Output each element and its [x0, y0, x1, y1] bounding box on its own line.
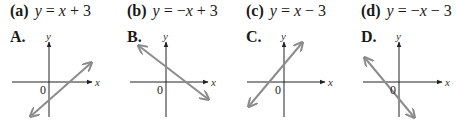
origin-label: 0 — [40, 83, 46, 97]
function-line — [139, 46, 208, 99]
x-axis-label: x — [444, 76, 450, 88]
y-axis-label: y — [280, 30, 286, 42]
graph-a: xy0 — [12, 30, 100, 117]
x-axis-label: x — [94, 76, 100, 88]
graph-b: xy0 — [130, 30, 216, 117]
graph-d: xy0 — [363, 30, 450, 117]
x-axis-label: x — [327, 76, 333, 88]
y-axis-label: y — [45, 30, 51, 42]
origin-label: 0 — [157, 83, 163, 97]
origin-label: 0 — [390, 83, 396, 97]
y-axis-label: y — [162, 30, 168, 42]
graph-c: xy0 — [247, 30, 333, 117]
graphs: xy0xy0xy0xy0 — [0, 0, 456, 130]
x-axis-label: x — [210, 76, 216, 88]
origin-label: 0 — [275, 83, 281, 97]
y-axis-label: y — [395, 30, 401, 42]
